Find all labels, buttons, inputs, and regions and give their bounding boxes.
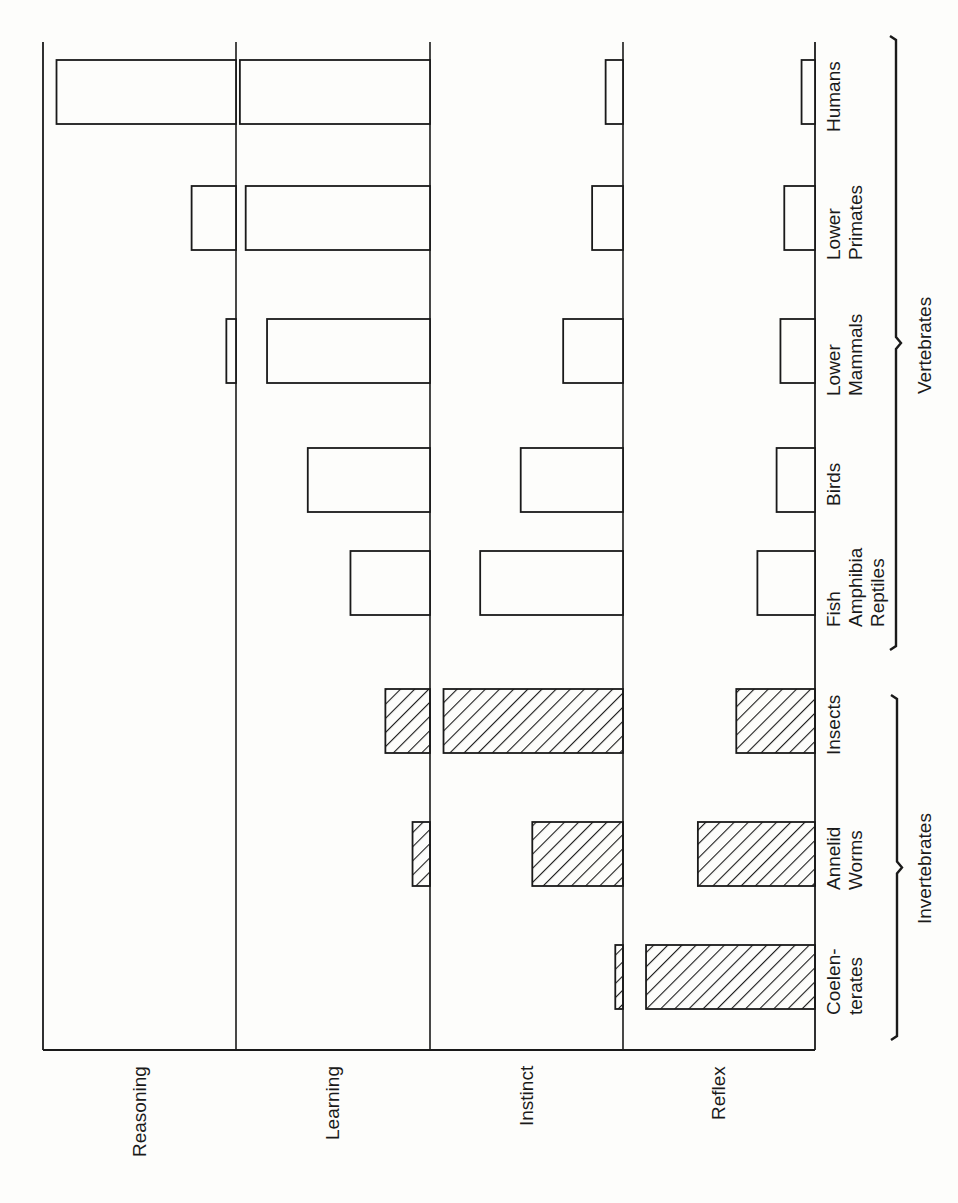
- category-label-lower-mammals: Lower Mammals: [823, 314, 867, 396]
- bar-learning-lower-mammals: [267, 319, 430, 383]
- bar-instinct-annelid-worms: [532, 822, 623, 886]
- bar-learning-lower-primates: [246, 186, 430, 250]
- category-label-lower-primates: Lower Primates: [823, 185, 867, 260]
- bar-learning-fish-amphibia-reptiles: [350, 551, 430, 615]
- category-label-birds: Birds: [823, 462, 845, 505]
- bar-reflex-lower-mammals: [780, 319, 815, 383]
- vertebrates-brace: [890, 36, 901, 650]
- group-invertebrates-label: Invertebrates: [914, 813, 936, 924]
- bar-instinct-coelenterates: [615, 945, 623, 1009]
- bar-reasoning-lower-mammals: [226, 319, 236, 383]
- bar-instinct-humans: [606, 60, 623, 124]
- group-braces: [890, 36, 902, 1040]
- behavior-label-instinct: Instinct: [516, 1066, 538, 1126]
- bar-reflex-coelenterates: [646, 945, 815, 1009]
- behavior-bar-chart: [0, 0, 958, 1203]
- bar-learning-birds: [308, 448, 430, 512]
- behavior-label-learning: Learning: [322, 1066, 344, 1140]
- category-label-annelid-worms: Annelid Worms: [823, 826, 867, 889]
- bar-reflex-insects: [736, 689, 815, 753]
- bar-reasoning-lower-primates: [192, 186, 236, 250]
- behavior-label-reflex: Reflex: [708, 1066, 730, 1120]
- bars-layer: [57, 60, 815, 1009]
- behavior-label-reasoning: Reasoning: [129, 1066, 151, 1157]
- invertebrates-brace: [891, 695, 902, 1040]
- category-label-fish-amphibia-reptiles: Fish Amphibia Reptiles: [823, 547, 889, 626]
- category-label-coelenterates: Coelen- terates: [823, 948, 867, 1015]
- bar-reflex-lower-primates: [784, 186, 815, 250]
- bar-instinct-lower-mammals: [563, 319, 623, 383]
- group-vertebrates-label: Vertebrates: [914, 296, 936, 393]
- bar-reflex-birds: [777, 448, 815, 512]
- bar-instinct-birds: [521, 448, 623, 512]
- bar-learning-annelid-worms: [413, 822, 430, 886]
- bar-instinct-insects: [444, 689, 623, 753]
- bar-reflex-humans: [802, 60, 815, 124]
- bar-reflex-fish-amphibia-reptiles: [757, 551, 815, 615]
- bar-instinct-fish-amphibia-reptiles: [480, 551, 623, 615]
- bar-instinct-lower-primates: [592, 186, 623, 250]
- bar-learning-insects: [385, 689, 430, 753]
- category-label-insects: Insects: [823, 695, 845, 755]
- bar-reasoning-humans: [57, 60, 236, 124]
- bar-reflex-annelid-worms: [698, 822, 815, 886]
- category-label-humans: Humans: [823, 61, 845, 132]
- bar-learning-humans: [240, 60, 430, 124]
